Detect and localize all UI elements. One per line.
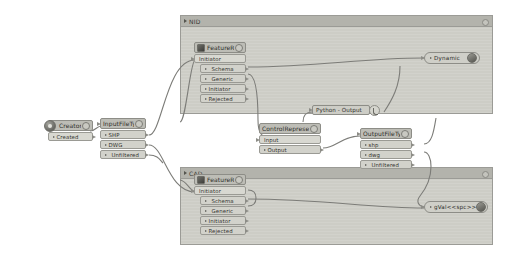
port-representor-input[interactable]: Input xyxy=(259,135,321,144)
node-input-file-type[interactable]: InputFileType SHP DWG Unfiltered xyxy=(100,118,146,159)
group-cad-options-icon[interactable] xyxy=(482,171,489,178)
port-bullet-icon xyxy=(365,144,367,146)
port-label: Generic xyxy=(209,76,234,82)
input-connector-icon[interactable] xyxy=(421,205,425,209)
gear-icon[interactable] xyxy=(135,120,143,128)
port-label: Unfiltered xyxy=(369,162,400,168)
node-control-representor-title: ControlRepresentor xyxy=(262,125,309,132)
port-label: Input xyxy=(264,137,278,143)
node-cad-feature-reader-header[interactable]: FeatureReader_2 xyxy=(194,174,246,185)
node-python-output[interactable]: Python - Output xyxy=(312,105,370,115)
group-nid-header[interactable]: NID xyxy=(181,16,492,27)
node-output-file-type[interactable]: OutputFileType shp dwg Unfiltered xyxy=(360,128,412,169)
node-dynamic-writer-title: Dynamic xyxy=(434,55,467,61)
port-cad-generic[interactable]: Generic xyxy=(200,206,246,215)
port-label: Initiator xyxy=(209,218,231,224)
port-input-shp[interactable]: SHP xyxy=(100,130,146,139)
node-creator-header[interactable]: Creator xyxy=(48,120,93,131)
node-control-representor[interactable]: ControlRepresentor Input Output xyxy=(259,123,321,154)
gear-icon[interactable] xyxy=(401,130,409,138)
port-output-unfiltered[interactable]: Unfiltered xyxy=(360,160,412,169)
output-connector-icon[interactable] xyxy=(411,143,415,147)
port-bullet-icon xyxy=(53,136,55,138)
input-connector-icon[interactable] xyxy=(357,132,361,136)
gear-icon[interactable] xyxy=(235,176,243,184)
workspace-canvas[interactable]: NID CAD xyxy=(0,0,508,258)
output-connector-icon[interactable] xyxy=(145,143,149,147)
node-var-writer[interactable]: gVal<<spc>> xyxy=(424,201,488,213)
output-connector-icon[interactable] xyxy=(145,153,149,157)
port-output-dwg[interactable]: dwg xyxy=(360,150,412,159)
reader-icon xyxy=(197,44,205,52)
port-nid-initiator-in[interactable]: Initiator xyxy=(194,54,246,63)
port-cad-schema[interactable]: Schema xyxy=(200,196,246,205)
group-nid-title: NID xyxy=(189,18,200,25)
port-nid-rejected[interactable]: Rejected xyxy=(200,94,246,103)
port-creator-created[interactable]: Created xyxy=(48,132,93,141)
port-bullet-icon xyxy=(365,154,367,156)
input-connector-icon[interactable] xyxy=(191,57,195,61)
port-bullet-icon xyxy=(205,78,207,80)
port-label: Initiator xyxy=(199,188,221,194)
port-cad-initiator-out[interactable]: Initiator xyxy=(200,216,246,225)
port-input-unfiltered[interactable]: Unfiltered xyxy=(100,150,146,159)
input-connector-icon[interactable] xyxy=(191,189,195,193)
port-nid-initiator-out[interactable]: Initiator xyxy=(200,84,246,93)
port-bullet-icon xyxy=(264,149,266,151)
port-label: Output xyxy=(268,147,287,153)
port-bullet-icon xyxy=(205,220,207,222)
output-connector-icon[interactable] xyxy=(245,67,249,71)
port-cad-rejected[interactable]: Rejected xyxy=(200,226,246,235)
writer-icon xyxy=(467,53,477,63)
node-nid-feature-reader-title: FeatureReader xyxy=(207,44,234,51)
gear-icon[interactable] xyxy=(82,122,90,130)
port-label: Rejected xyxy=(209,228,233,234)
output-connector-icon[interactable] xyxy=(245,229,249,233)
port-bullet-icon xyxy=(105,154,107,156)
port-input-dwg[interactable]: DWG xyxy=(100,140,146,149)
input-connector-icon[interactable] xyxy=(309,108,313,112)
node-output-file-type-title: OutputFileType xyxy=(363,130,400,137)
output-connector-icon[interactable] xyxy=(320,148,324,152)
port-label: DWG xyxy=(109,142,123,148)
gear-icon[interactable] xyxy=(310,125,318,133)
chevron-right-icon xyxy=(430,57,432,59)
node-input-file-type-header[interactable]: InputFileType xyxy=(100,118,146,129)
output-connector-icon[interactable] xyxy=(411,163,415,167)
port-cad-initiator-in[interactable]: Initiator xyxy=(194,186,246,195)
python-script-icon[interactable] xyxy=(369,105,380,116)
output-connector-icon[interactable] xyxy=(245,97,249,101)
port-label: shp xyxy=(369,142,379,148)
node-nid-feature-reader-header[interactable]: FeatureReader xyxy=(194,42,246,53)
input-connector-icon[interactable] xyxy=(97,122,101,126)
port-nid-schema[interactable]: Schema xyxy=(200,64,246,73)
output-connector-icon[interactable] xyxy=(245,77,249,81)
node-var-writer-title: gVal<<spc>> xyxy=(434,204,476,210)
chevron-right-icon xyxy=(184,19,187,23)
port-label: Created xyxy=(57,134,79,140)
port-bullet-icon xyxy=(105,134,107,136)
node-nid-feature-reader[interactable]: FeatureReader Initiator Schema Generic I… xyxy=(194,42,246,103)
port-label: Rejected xyxy=(209,96,233,102)
node-output-file-type-header[interactable]: OutputFileType xyxy=(360,128,412,139)
output-connector-icon[interactable] xyxy=(411,153,415,157)
node-creator[interactable]: Creator Created xyxy=(48,120,93,141)
port-output-shp[interactable]: shp xyxy=(360,140,412,149)
output-connector-icon[interactable] xyxy=(245,209,249,213)
gear-icon[interactable] xyxy=(235,44,243,52)
output-connector-icon[interactable] xyxy=(92,135,96,139)
input-connector-icon[interactable] xyxy=(256,138,260,142)
output-connector-icon[interactable] xyxy=(245,199,249,203)
port-representor-output[interactable]: Output xyxy=(259,145,321,154)
node-cad-feature-reader-title: FeatureReader_2 xyxy=(207,176,234,183)
output-connector-icon[interactable] xyxy=(245,87,249,91)
port-nid-generic[interactable]: Generic xyxy=(200,74,246,83)
output-connector-icon[interactable] xyxy=(145,133,149,137)
input-connector-icon[interactable] xyxy=(421,56,425,60)
node-control-representor-header[interactable]: ControlRepresentor xyxy=(259,123,321,134)
node-dynamic-writer[interactable]: Dynamic xyxy=(424,52,480,64)
output-connector-icon[interactable] xyxy=(245,219,249,223)
group-nid-options-icon[interactable] xyxy=(482,19,489,26)
node-cad-feature-reader[interactable]: FeatureReader_2 Initiator Schema Generic… xyxy=(194,174,246,235)
port-label: Schema xyxy=(209,198,234,204)
